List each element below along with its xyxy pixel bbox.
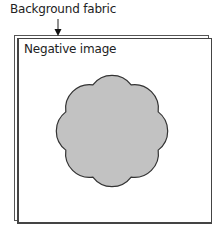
scalloped-flower-shape	[56, 75, 167, 186]
diagram-graphics	[0, 0, 217, 234]
pointer-arrow	[55, 19, 62, 36]
